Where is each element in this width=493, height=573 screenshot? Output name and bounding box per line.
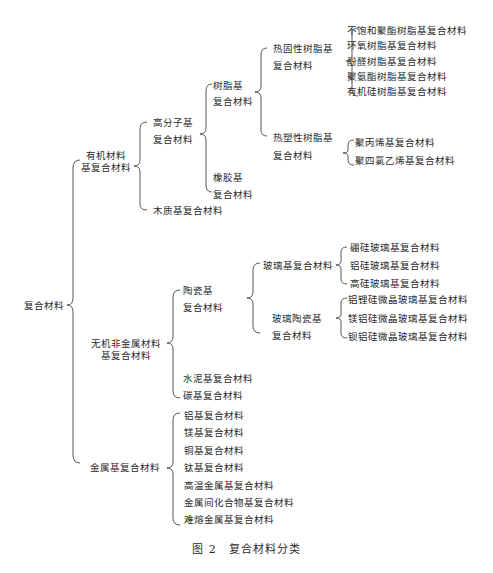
rubber-label-line2: 复合材料 [213, 189, 253, 201]
glass-label: 玻璃基复合材料 [263, 260, 333, 272]
resin-brace [255, 48, 267, 136]
glass-item: 高硅玻璃基复合材料 [350, 278, 440, 290]
figure-caption: 图 2 复合材料分类 [0, 540, 493, 556]
thermoplastic-label-line1: 热塑性树脂基 [273, 132, 333, 144]
resin-label-line1: 树脂基 [213, 80, 243, 92]
thermoset-item: 酚醛树脂基复合材料 [347, 56, 437, 68]
glass-ceramic-brace [336, 298, 347, 338]
root-label: 复合材料 [24, 300, 64, 312]
metal-item: 难熔金属基复合材料 [184, 514, 274, 526]
cement-label: 水泥基复合材料 [183, 373, 253, 385]
glass-ceramic-item: 钡铝硅微晶玻璃基复合材料 [348, 331, 468, 343]
thermoset-item: 聚氨酯树脂基复合材料 [347, 71, 447, 83]
metal-brace [167, 413, 180, 525]
organic-label-line1: 有机材料 [76, 150, 136, 162]
metal-item: 铝基复合材料 [184, 410, 244, 422]
polymer-brace [200, 84, 212, 192]
thermoset-item: 环氧树脂基复合材料 [347, 40, 437, 52]
inorganic-label-line1: 无机非金属材料 [86, 338, 166, 350]
polymer-label-line2: 复合材料 [153, 134, 193, 146]
polymer-label-line1: 高分子基 [153, 117, 193, 129]
glass-ceramic-label-line1: 玻璃陶瓷基 [272, 313, 322, 325]
thermoset-item: 有机硅树脂基复合材料 [347, 86, 447, 98]
thermoplastic-label-line2: 复合材料 [273, 150, 313, 162]
metal-item: 镁基复合材料 [184, 427, 244, 439]
ceramic-brace [247, 263, 260, 333]
metal-item: 铜基复合材料 [184, 445, 244, 457]
carbon-label: 碳基复合材料 [183, 390, 243, 402]
glass-item: 硼硅玻璃基复合材料 [350, 242, 440, 254]
rubber-label-line1: 橡胶基 [213, 172, 243, 184]
thermoset-label-line1: 热固性树脂基 [273, 43, 333, 55]
inorganic-brace [167, 290, 180, 398]
glass-ceramic-item: 镁铝硅微晶玻璃基复合材料 [348, 313, 468, 325]
glass-ceramic-item: 铝锂硅微晶玻璃基复合材料 [348, 294, 468, 306]
glass-item: 铝硅玻璃基复合材料 [350, 260, 440, 272]
inorganic-label-line2: 基复合材料 [86, 350, 166, 362]
thermoplastic-brace [343, 140, 354, 165]
thermoset-item: 不饱和聚酯树脂基复合材料 [347, 25, 467, 37]
wood-label: 木质基复合材料 [153, 205, 223, 217]
root-brace [67, 160, 80, 463]
metal-item: 钛基复合材料 [184, 462, 244, 474]
thermoplastic-item: 聚丙烯基复合材料 [355, 137, 435, 149]
thermoset-label-line2: 复合材料 [273, 60, 313, 72]
metal-item: 金属间化合物基复合材料 [184, 497, 294, 509]
thermoplastic-item: 聚四氯乙烯基复合材料 [355, 155, 455, 167]
organic-label-line2: 基复合材料 [76, 162, 136, 174]
glass-brace [336, 247, 347, 284]
ceramic-label-line2: 复合材料 [183, 302, 223, 314]
metal-item: 高温金属基复合材料 [184, 480, 274, 492]
glass-ceramic-label-line2: 复合材料 [272, 330, 312, 342]
ceramic-label-line1: 陶瓷基 [183, 285, 213, 297]
metal-label: 金属基复合材料 [90, 462, 160, 474]
resin-label-line2: 复合材料 [213, 96, 253, 108]
